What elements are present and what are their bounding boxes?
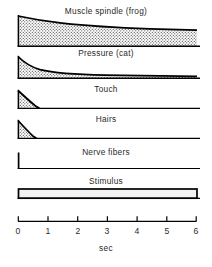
axis-tick-label-2: 2 [76, 226, 81, 236]
panel-label-muscle-spindle: Muscle spindle (frog) [0, 6, 212, 16]
panel-label-nerve-fibers: Nerve fibers [0, 147, 212, 157]
axis-tick-label-6: 6 [194, 226, 199, 236]
muscle-spindle-plot [0, 12, 212, 50]
panel-label-pressure: Pressure (cat) [0, 48, 212, 58]
panel-label-touch: Touch [0, 84, 212, 94]
axis-title-sec: sec [0, 243, 212, 253]
axis-tick-label-4: 4 [135, 226, 140, 236]
panel-muscle-spindle: Muscle spindle (frog) [0, 12, 212, 50]
axis-tick-label-3: 3 [105, 226, 110, 236]
panel-label-stimulus: Stimulus [0, 176, 212, 186]
panel-label-hairs: Hairs [0, 114, 212, 124]
stimulus-plot [0, 184, 212, 206]
stimulus-pulse [19, 189, 198, 198]
panel-nerve-fibers: Nerve fibers [0, 150, 212, 172]
axis-tick-label-0: 0 [16, 226, 21, 236]
panel-stimulus: Stimulus [0, 184, 212, 206]
axis-tick-label-1: 1 [46, 226, 51, 236]
axis-tick-label-5: 5 [165, 226, 170, 236]
time-axis: 0 1 2 3 4 5 6 [0, 214, 212, 244]
pressure-plot [0, 54, 212, 82]
panel-pressure: Pressure (cat) [0, 54, 212, 82]
sensory-adaptation-figure: Muscle spindle (frog) Pressure (cat) [0, 0, 212, 267]
panel-touch: Touch [0, 88, 212, 112]
panel-hairs: Hairs [0, 118, 212, 142]
